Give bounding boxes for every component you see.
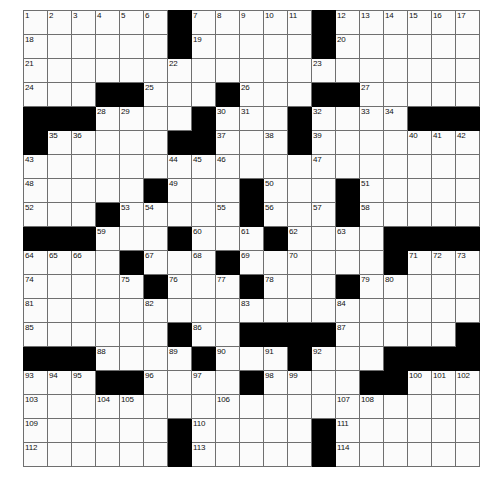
crossword-cell[interactable] xyxy=(456,419,480,443)
crossword-cell[interactable]: 41 xyxy=(432,131,456,155)
crossword-cell[interactable] xyxy=(312,275,336,299)
crossword-cell[interactable] xyxy=(336,59,360,83)
crossword-cell[interactable]: 39 xyxy=(312,131,336,155)
crossword-cell[interactable]: 60 xyxy=(192,227,216,251)
crossword-cell[interactable] xyxy=(216,35,240,59)
crossword-cell[interactable] xyxy=(408,419,432,443)
crossword-cell[interactable] xyxy=(144,395,168,419)
crossword-cell[interactable] xyxy=(384,131,408,155)
crossword-cell[interactable] xyxy=(168,203,192,227)
crossword-cell[interactable] xyxy=(432,83,456,107)
crossword-cell[interactable] xyxy=(216,179,240,203)
crossword-cell[interactable]: 101 xyxy=(432,371,456,395)
crossword-cell[interactable]: 10 xyxy=(264,11,288,35)
crossword-cell[interactable] xyxy=(48,35,72,59)
crossword-cell[interactable] xyxy=(456,203,480,227)
crossword-cell[interactable] xyxy=(360,155,384,179)
crossword-cell[interactable] xyxy=(144,155,168,179)
crossword-cell[interactable] xyxy=(216,59,240,83)
crossword-cell[interactable] xyxy=(336,131,360,155)
crossword-cell[interactable] xyxy=(48,395,72,419)
crossword-cell[interactable] xyxy=(192,299,216,323)
crossword-cell[interactable]: 12 xyxy=(336,11,360,35)
crossword-cell[interactable] xyxy=(72,323,96,347)
crossword-cell[interactable] xyxy=(216,419,240,443)
crossword-cell[interactable] xyxy=(144,59,168,83)
crossword-cell[interactable] xyxy=(144,131,168,155)
crossword-cell[interactable] xyxy=(360,227,384,251)
crossword-cell[interactable] xyxy=(408,299,432,323)
crossword-cell[interactable]: 112 xyxy=(24,443,48,467)
crossword-cell[interactable]: 48 xyxy=(24,179,48,203)
crossword-cell[interactable]: 28 xyxy=(96,107,120,131)
crossword-cell[interactable]: 78 xyxy=(264,275,288,299)
crossword-cell[interactable] xyxy=(72,395,96,419)
crossword-cell[interactable] xyxy=(288,275,312,299)
crossword-cell[interactable] xyxy=(408,203,432,227)
crossword-cell[interactable]: 104 xyxy=(96,395,120,419)
crossword-cell[interactable] xyxy=(168,251,192,275)
crossword-cell[interactable]: 2 xyxy=(48,11,72,35)
crossword-cell[interactable] xyxy=(288,299,312,323)
crossword-cell[interactable]: 56 xyxy=(264,203,288,227)
crossword-cell[interactable]: 22 xyxy=(168,59,192,83)
crossword-cell[interactable] xyxy=(144,323,168,347)
crossword-cell[interactable] xyxy=(360,299,384,323)
crossword-cell[interactable] xyxy=(192,179,216,203)
crossword-cell[interactable] xyxy=(144,443,168,467)
crossword-cell[interactable] xyxy=(456,35,480,59)
crossword-cell[interactable]: 44 xyxy=(168,155,192,179)
crossword-cell[interactable] xyxy=(360,419,384,443)
crossword-cell[interactable] xyxy=(456,83,480,107)
crossword-cell[interactable] xyxy=(432,35,456,59)
crossword-cell[interactable]: 23 xyxy=(312,59,336,83)
crossword-cell[interactable] xyxy=(72,443,96,467)
crossword-cell[interactable] xyxy=(360,59,384,83)
crossword-cell[interactable]: 36 xyxy=(72,131,96,155)
crossword-cell[interactable] xyxy=(96,251,120,275)
crossword-cell[interactable]: 24 xyxy=(24,83,48,107)
crossword-cell[interactable] xyxy=(408,155,432,179)
crossword-cell[interactable] xyxy=(408,59,432,83)
crossword-cell[interactable] xyxy=(144,419,168,443)
crossword-cell[interactable]: 113 xyxy=(192,443,216,467)
crossword-cell[interactable]: 57 xyxy=(312,203,336,227)
crossword-cell[interactable]: 42 xyxy=(456,131,480,155)
crossword-cell[interactable]: 19 xyxy=(192,35,216,59)
crossword-cell[interactable]: 58 xyxy=(360,203,384,227)
crossword-cell[interactable]: 7 xyxy=(192,11,216,35)
crossword-cell[interactable]: 71 xyxy=(408,251,432,275)
crossword-cell[interactable]: 103 xyxy=(24,395,48,419)
crossword-cell[interactable] xyxy=(96,59,120,83)
crossword-cell[interactable] xyxy=(120,419,144,443)
crossword-cell[interactable] xyxy=(144,227,168,251)
crossword-cell[interactable] xyxy=(312,371,336,395)
crossword-cell[interactable] xyxy=(456,443,480,467)
crossword-cell[interactable] xyxy=(264,59,288,83)
crossword-cell[interactable]: 86 xyxy=(192,323,216,347)
crossword-cell[interactable]: 89 xyxy=(168,347,192,371)
crossword-cell[interactable] xyxy=(312,395,336,419)
crossword-cell[interactable] xyxy=(240,35,264,59)
crossword-cell[interactable] xyxy=(168,395,192,419)
crossword-cell[interactable] xyxy=(168,371,192,395)
crossword-cell[interactable] xyxy=(432,419,456,443)
crossword-cell[interactable]: 81 xyxy=(24,299,48,323)
crossword-cell[interactable]: 96 xyxy=(144,371,168,395)
crossword-cell[interactable] xyxy=(336,371,360,395)
crossword-cell[interactable]: 97 xyxy=(192,371,216,395)
crossword-cell[interactable] xyxy=(384,35,408,59)
crossword-cell[interactable] xyxy=(384,419,408,443)
crossword-cell[interactable] xyxy=(408,443,432,467)
crossword-cell[interactable]: 38 xyxy=(264,131,288,155)
crossword-cell[interactable] xyxy=(144,107,168,131)
crossword-cell[interactable] xyxy=(96,275,120,299)
crossword-cell[interactable] xyxy=(72,179,96,203)
crossword-cell[interactable] xyxy=(120,299,144,323)
crossword-cell[interactable]: 34 xyxy=(384,107,408,131)
crossword-cell[interactable] xyxy=(120,155,144,179)
crossword-cell[interactable] xyxy=(360,251,384,275)
crossword-cell[interactable]: 62 xyxy=(288,227,312,251)
crossword-cell[interactable] xyxy=(48,443,72,467)
crossword-cell[interactable] xyxy=(456,275,480,299)
